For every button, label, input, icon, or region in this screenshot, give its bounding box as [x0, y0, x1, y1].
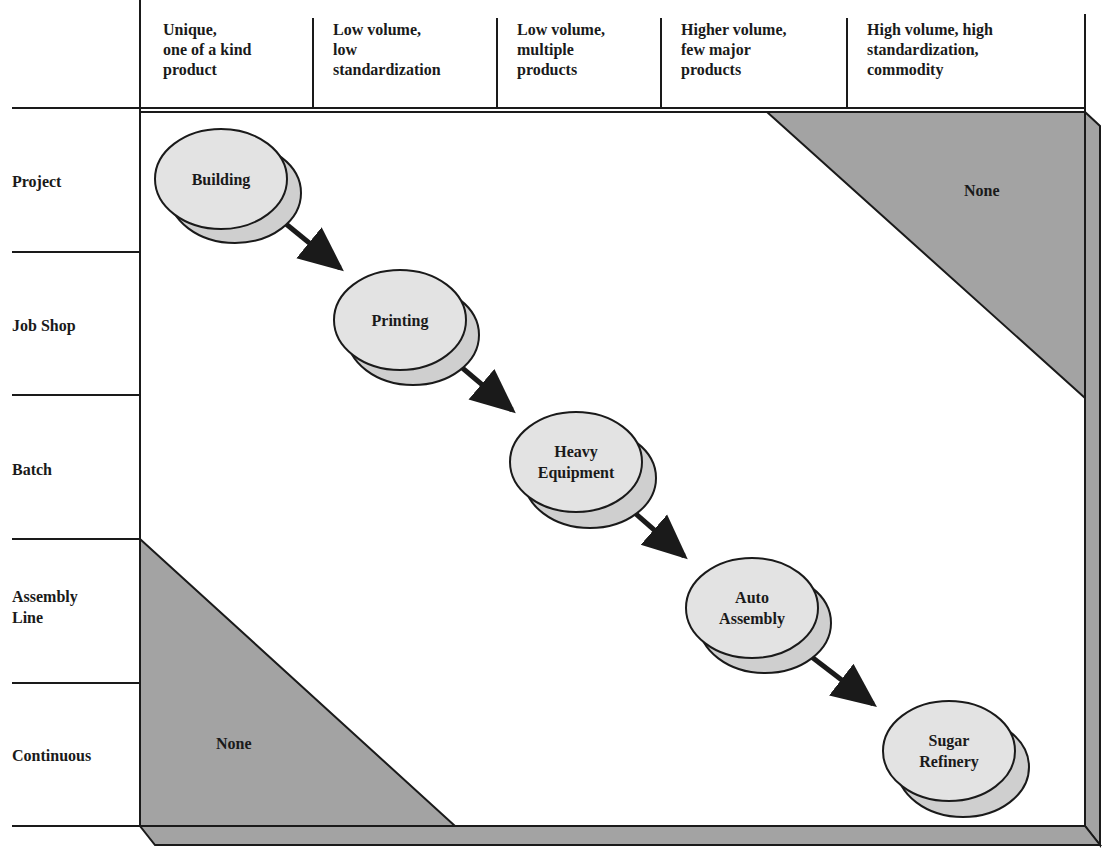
row-label-job-shop: Job Shop: [12, 315, 76, 336]
column-header-high-volume: High volume, high standardization, commo…: [867, 20, 993, 80]
column-header-low-volume-multiple: Low volume, multiple products: [517, 20, 605, 80]
right-extrusion: [1085, 112, 1100, 845]
row-label-project: Project: [12, 171, 61, 192]
node-label-sugar-refinery: Sugar Refinery: [884, 730, 1014, 772]
column-header-low-volume-low-standardization: Low volume, low standardization: [333, 20, 441, 80]
bottom-extrusion: [140, 826, 1100, 845]
product-process-matrix: Unique, one of a kind product Low volume…: [0, 0, 1107, 854]
matrix-graphics: [0, 0, 1107, 854]
row-label-assembly-line: Assembly Line: [12, 586, 78, 628]
column-header-unique: Unique, one of a kind product: [163, 20, 251, 80]
shaded-region-bottom-left: [140, 539, 455, 826]
none-label-top-right: None: [964, 182, 1000, 200]
node-label-heavy-equipment: Heavy Equipment: [511, 441, 641, 483]
none-label-bottom-left: None: [216, 735, 252, 753]
node-label-building: Building: [156, 169, 286, 190]
row-label-batch: Batch: [12, 459, 52, 480]
row-label-continuous: Continuous: [12, 745, 91, 766]
column-header-higher-volume: Higher volume, few major products: [681, 20, 786, 80]
node-label-printing: Printing: [335, 310, 465, 331]
node-label-auto-assembly: Auto Assembly: [687, 587, 817, 629]
shaded-region-top-right: [767, 112, 1085, 398]
